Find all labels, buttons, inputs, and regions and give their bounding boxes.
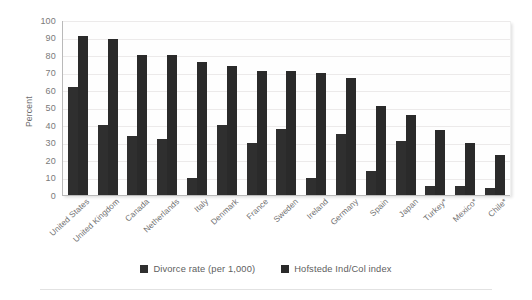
- y-axis-tick-label: 20: [46, 157, 56, 166]
- legend-label: Divorce rate (per 1,000): [153, 264, 255, 274]
- x-axis-tick-labels: United StatesUnited KingdomCanadaNetherl…: [63, 197, 511, 267]
- bar: [157, 139, 167, 195]
- bar-group: [450, 21, 480, 195]
- x-axis-tick-label: Sweden: [272, 197, 300, 224]
- bars-layer: [63, 21, 510, 195]
- bar: [316, 73, 326, 196]
- y-axis-tick-label: 40: [46, 122, 56, 131]
- x-axis-tick-label: Italy: [193, 197, 210, 214]
- bar-group: [331, 21, 361, 195]
- bar-group: [123, 21, 153, 195]
- plot-area: [62, 21, 511, 196]
- x-axis-tick-label: France: [245, 197, 270, 221]
- footer-divider: [40, 289, 492, 290]
- bar-group: [421, 21, 451, 195]
- bar-group: [152, 21, 182, 195]
- bar: [435, 130, 445, 195]
- bar: [167, 55, 177, 195]
- bar-chart-figure: Percent 1009080706050403020100 United St…: [0, 0, 532, 300]
- x-axis-tick-label: Denmark: [209, 197, 240, 227]
- x-axis-tick-label: Spain: [368, 197, 390, 218]
- bar: [187, 178, 197, 196]
- bar-group: [361, 21, 391, 195]
- bar: [247, 143, 257, 196]
- bar: [485, 188, 495, 195]
- bar-group: [242, 21, 272, 195]
- bar-group: [480, 21, 510, 195]
- bar: [276, 129, 286, 196]
- y-axis-tick-label: 90: [46, 34, 56, 43]
- bar: [68, 87, 78, 196]
- y-axis-tick-label: 50: [46, 104, 56, 113]
- legend-swatch-divorce: [140, 265, 148, 273]
- y-axis-tick-label: 0: [51, 192, 56, 201]
- bar: [257, 71, 267, 195]
- bar: [495, 155, 505, 195]
- x-axis-tick-label: Germany: [329, 197, 360, 227]
- bar: [346, 78, 356, 195]
- y-axis-tick-label: 30: [46, 139, 56, 148]
- bar: [465, 143, 475, 196]
- bar-group: [391, 21, 421, 195]
- legend-swatch-hofstede: [281, 265, 289, 273]
- y-axis-tick-label: 80: [46, 52, 56, 61]
- bar: [98, 125, 108, 195]
- x-axis-tick-label: Ireland: [305, 197, 330, 221]
- bar: [366, 171, 376, 196]
- bar-group: [301, 21, 331, 195]
- bar: [406, 115, 416, 196]
- bar: [376, 106, 386, 195]
- bar-group: [182, 21, 212, 195]
- x-axis-tick-label: Mexico*: [451, 197, 479, 224]
- y-axis-tick-label: 70: [46, 69, 56, 78]
- bar-group: [272, 21, 302, 195]
- bar: [396, 141, 406, 195]
- y-axis-line: [62, 21, 63, 196]
- bar-group: [63, 21, 93, 195]
- bar: [127, 136, 137, 196]
- bar: [217, 125, 227, 195]
- bar: [78, 36, 88, 195]
- bar-group: [93, 21, 123, 195]
- y-axis-tick-labels: 1009080706050403020100: [0, 0, 62, 300]
- x-axis-tick-label: Canada: [123, 197, 151, 224]
- y-axis-tick-label: 100: [40, 17, 56, 26]
- bar: [197, 62, 207, 195]
- bar: [336, 134, 346, 195]
- bar-group: [212, 21, 242, 195]
- bar: [227, 66, 237, 196]
- bar: [455, 186, 465, 195]
- chart-legend: Divorce rate (per 1,000)Hofstede Ind/Col…: [0, 264, 532, 274]
- bar: [137, 55, 147, 195]
- y-axis-tick-label: 60: [46, 87, 56, 96]
- legend-item[interactable]: Hofstede Ind/Col index: [281, 264, 391, 274]
- y-axis-tick-label: 10: [46, 174, 56, 183]
- x-axis-tick-label: Turkey*: [422, 197, 449, 223]
- x-axis-tick-label: Japan: [397, 197, 420, 219]
- legend-label: Hofstede Ind/Col index: [294, 264, 391, 274]
- bar: [108, 39, 118, 195]
- bar: [306, 178, 316, 196]
- legend-item[interactable]: Divorce rate (per 1,000): [140, 264, 255, 274]
- x-axis-tick-label: Chile*: [487, 197, 510, 219]
- bar: [286, 71, 296, 195]
- bar: [425, 186, 435, 195]
